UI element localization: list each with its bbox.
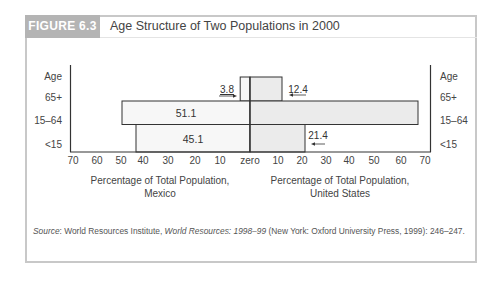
label-mexico-65plus: 3.8 — [220, 84, 234, 95]
age-label-left-15-64: 15–64 — [34, 115, 62, 126]
arrow-right-head-icon — [233, 94, 237, 97]
label-us-under15: 21.4 — [308, 130, 328, 141]
tick-right-70: 70 — [419, 155, 431, 166]
arrow-left-head-icon-2 — [311, 142, 315, 145]
tick-left-60: 60 — [91, 155, 103, 166]
tick-left-40: 40 — [137, 155, 149, 166]
tick-left-70: 70 — [67, 155, 79, 166]
bar-mexico-65plus — [240, 77, 250, 101]
label-mexico-15-64: 51.1 — [176, 107, 197, 119]
label-us-65plus: 12.4 — [288, 84, 308, 95]
source-prefix: Source — [33, 226, 60, 236]
tick-left-30: 30 — [162, 155, 174, 166]
tick-right-40: 40 — [343, 155, 355, 166]
source-org: : World Resources Institute, — [60, 226, 165, 236]
tick-right-50: 50 — [368, 155, 380, 166]
bar-us-65plus — [250, 77, 282, 101]
x-tick-labels: 70 60 50 40 30 20 10 zero 10 20 30 40 50… — [67, 155, 431, 166]
age-label-right-15-64: 15–64 — [440, 115, 468, 126]
tick-left-20: 20 — [189, 155, 201, 166]
bar-us-15-64 — [250, 101, 418, 125]
tick-right-30: 30 — [320, 155, 332, 166]
population-pyramid-chart: 3.8 51.1 45.1 12.4 21.4 Age 65+ 15–64 <1… — [0, 0, 503, 281]
age-label-left-under15: <15 — [45, 139, 62, 150]
tick-right-60: 60 — [395, 155, 407, 166]
xlabel-us-line2: United States — [310, 188, 370, 199]
age-label-left-65plus: 65+ — [45, 92, 62, 103]
age-label-right-under15: <15 — [440, 139, 457, 150]
tick-zero: zero — [240, 155, 260, 166]
xlabel-mexico-line1: Percentage of Total Population, — [91, 175, 230, 186]
age-label-right-65plus: 65+ — [440, 92, 457, 103]
tick-left-50: 50 — [115, 155, 127, 166]
xlabel-mexico-line2: Mexico — [144, 188, 176, 199]
tick-left-10: 10 — [214, 155, 226, 166]
age-title-right: Age — [440, 71, 458, 82]
source-rest: (New York: Oxford University Press, 1999… — [266, 226, 465, 236]
source-note: Source: World Resources Institute, World… — [33, 225, 473, 237]
tick-right-10: 10 — [272, 155, 284, 166]
age-title-left: Age — [44, 71, 62, 82]
tick-right-20: 20 — [296, 155, 308, 166]
bar-us-under15 — [250, 125, 305, 153]
source-work: World Resources: 1998–99 — [165, 226, 267, 236]
xlabel-us-line1: Percentage of Total Population, — [271, 175, 410, 186]
label-mexico-under15: 45.1 — [183, 133, 204, 145]
